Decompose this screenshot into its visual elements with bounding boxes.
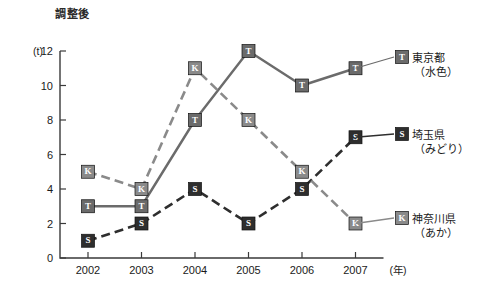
data-point-marker-T: T (135, 200, 148, 213)
data-point-marker-K: K (242, 114, 255, 127)
data-point-marker-K: K (135, 183, 148, 196)
legend-connector-lines: TSK (356, 51, 409, 225)
legend-key-S: S (396, 128, 409, 141)
legend-label-kanagawa: 神奈川県 (412, 213, 456, 225)
x-tick-label: 2005 (236, 264, 260, 276)
data-point-marker-S: S (82, 234, 95, 247)
svg-text:K: K (398, 213, 405, 223)
y-tick-label: 0 (47, 252, 53, 264)
legend-item-tokyo: 東京都 （水色） (412, 51, 458, 79)
svg-text:K: K (191, 63, 198, 73)
y-tick-label: 6 (47, 149, 53, 161)
legend-sublabel-tokyo: （水色） (412, 65, 458, 79)
svg-text:S: S (299, 184, 304, 194)
y-tick-label: 2 (47, 218, 53, 230)
svg-text:T: T (299, 80, 305, 90)
x-tick-label: 2002 (76, 264, 100, 276)
chart-root: 調整後 024681012(t)200220032004200520062007… (0, 0, 477, 293)
x-tick-label: 2006 (290, 264, 314, 276)
legend-label-saitama: 埼玉県 (412, 129, 445, 141)
data-point-marker-T: T (82, 200, 95, 213)
svg-text:T: T (399, 52, 405, 62)
data-point-marker-S: S (296, 183, 309, 196)
x-axis-unit: (年) (390, 264, 407, 276)
legend-item-saitama: 埼玉県 （みどり） (412, 128, 469, 156)
x-tick-label: 2007 (343, 264, 367, 276)
chart-series: TTTTTTSSSSSSKKKKKK (82, 45, 363, 248)
data-point-marker-S: S (135, 217, 148, 230)
y-tick-label: 8 (47, 114, 53, 126)
svg-text:T: T (138, 201, 144, 211)
legend-sublabel-kanagawa: （あか） (412, 226, 458, 240)
x-tick-label: 2004 (183, 264, 207, 276)
y-axis-unit: (t) (33, 45, 43, 57)
legend-key-K: K (396, 212, 409, 225)
svg-text:K: K (298, 166, 305, 176)
data-point-marker-S: S (189, 183, 202, 196)
svg-text:S: S (399, 129, 404, 139)
svg-text:K: K (245, 115, 252, 125)
legend-item-kanagawa: 神奈川県 （あか） (412, 212, 458, 240)
y-tick-label: 4 (47, 183, 53, 195)
svg-text:K: K (84, 166, 91, 176)
svg-text:K: K (138, 184, 145, 194)
svg-text:S: S (85, 235, 90, 245)
svg-text:T: T (245, 46, 251, 56)
data-point-marker-T: T (189, 114, 202, 127)
data-point-marker-K: K (296, 165, 309, 178)
data-point-marker-S: S (242, 217, 255, 230)
data-point-marker-T: T (296, 79, 309, 92)
svg-text:T: T (192, 115, 198, 125)
legend-label-tokyo: 東京都 (412, 52, 445, 64)
series-line-K (88, 68, 356, 223)
data-point-marker-T: T (242, 45, 255, 58)
svg-text:T: T (85, 201, 91, 211)
x-tick-label: 2003 (129, 264, 153, 276)
legend-key-T: T (396, 51, 409, 64)
data-point-marker-K: K (189, 62, 202, 75)
y-tick-label: 10 (41, 80, 53, 92)
data-point-marker-K: K (82, 165, 95, 178)
legend-sublabel-saitama: （みどり） (412, 142, 469, 156)
line-chart-plot: 024681012(t)200220032004200520062007(年) … (0, 0, 477, 293)
svg-text:S: S (246, 218, 251, 228)
svg-text:S: S (192, 184, 197, 194)
series-line-S (88, 137, 356, 241)
svg-text:S: S (139, 218, 144, 228)
